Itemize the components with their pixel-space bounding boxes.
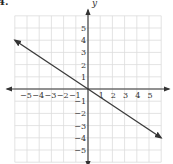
- y-tick-label: −3: [74, 122, 86, 131]
- y-tick-label: −1: [74, 97, 86, 106]
- y-tick-label: −5: [74, 146, 86, 155]
- y-axis-label: y: [91, 0, 98, 8]
- y-tick-label: 4: [81, 36, 86, 45]
- x-tick-label: −5: [20, 91, 32, 100]
- x-tick-label: 4: [135, 91, 140, 100]
- y-tick-label: 2: [81, 61, 86, 70]
- x-tick-label: −3: [45, 91, 57, 100]
- y-tick-label: 5: [81, 24, 86, 33]
- x-tick-label: 2: [111, 91, 116, 100]
- y-tick-label: −2: [74, 109, 86, 118]
- coordinate-plane: y−5−4−3−2−112345−5−4−3−2−112345: [0, 0, 173, 164]
- x-tick-label: −2: [57, 91, 69, 100]
- y-tick-label: 3: [81, 48, 86, 57]
- y-tick-label: −4: [74, 134, 86, 143]
- x-tick-label: −4: [32, 91, 44, 100]
- y-tick-label: 1: [81, 73, 86, 82]
- x-tick-label: 3: [123, 91, 128, 100]
- x-tick-label: 5: [147, 91, 152, 100]
